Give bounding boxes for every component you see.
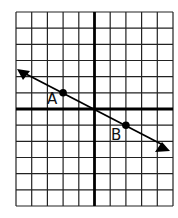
coordinate-plane: A B	[0, 0, 178, 218]
point-a	[59, 89, 67, 97]
label-b: B	[111, 126, 121, 144]
label-a: A	[47, 90, 58, 108]
point-b	[122, 121, 130, 129]
